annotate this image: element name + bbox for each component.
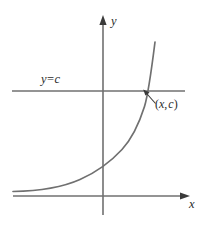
x-axis-label: x xyxy=(189,198,195,211)
plot-area xyxy=(0,0,207,230)
equation-rhs-symbol: c xyxy=(54,72,60,86)
figure-canvas: y=c y x (x, c) xyxy=(0,0,207,230)
horizontal-line-equation-label: y=c xyxy=(41,73,60,86)
exponential-curve xyxy=(13,42,155,192)
intersection-point-label: (x, c) xyxy=(155,98,178,110)
point-close-paren: ) xyxy=(174,97,178,111)
y-axis-label: y xyxy=(111,15,117,28)
y-axis-arrowhead-icon xyxy=(99,15,106,25)
point-comma: , xyxy=(164,97,167,111)
